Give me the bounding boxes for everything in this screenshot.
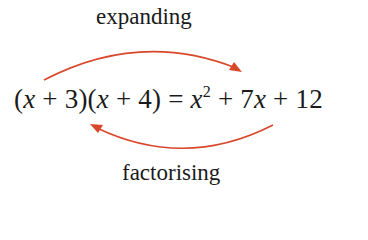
eq-term: + 3)( [35, 84, 96, 114]
eq-var-x: x [23, 84, 35, 114]
eq-equals: = [161, 84, 190, 114]
eq-var-x: x [97, 84, 109, 114]
eq-term: + 7 [211, 84, 254, 114]
equation: (x + 3)(x + 4) = x2 + 7x + 12 [14, 84, 323, 115]
eq-exponent: 2 [203, 83, 211, 100]
factorising-arrow-icon [90, 124, 273, 148]
eq-term: + 4) [109, 84, 161, 114]
eq-var-x: x [254, 84, 266, 114]
factorising-label: factorising [122, 160, 220, 186]
eq-paren: ( [14, 84, 23, 114]
eq-var-x: x [191, 84, 203, 114]
expanding-arrow-icon [44, 52, 242, 80]
eq-left: (x + 3)(x + 4) [14, 84, 161, 114]
eq-term: + 12 [266, 84, 323, 114]
eq-right: x2 + 7x + 12 [191, 84, 323, 114]
